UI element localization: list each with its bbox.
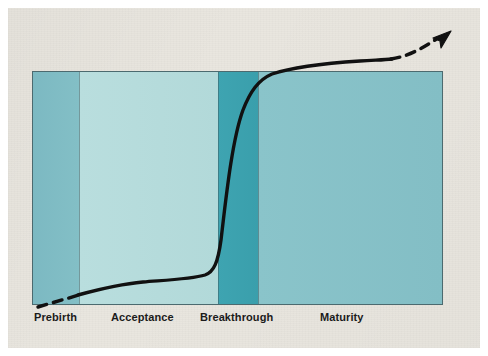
band-label-maturity: Maturity [320, 311, 364, 323]
band-breakthrough [218, 72, 258, 304]
band-maturity [258, 72, 442, 304]
band-separator-3 [258, 72, 259, 304]
band-label-breakthrough: Breakthrough [200, 311, 273, 323]
figure-page: Prebirth Acceptance Breakthrough Maturit… [0, 0, 488, 356]
band-label-prebirth: Prebirth [34, 311, 77, 323]
chart-plot-area [32, 71, 443, 305]
band-separator-2 [218, 72, 219, 304]
band-acceptance [79, 72, 218, 304]
band-separator-1 [79, 72, 80, 304]
band-prebirth [33, 72, 79, 304]
band-label-acceptance: Acceptance [111, 311, 174, 323]
